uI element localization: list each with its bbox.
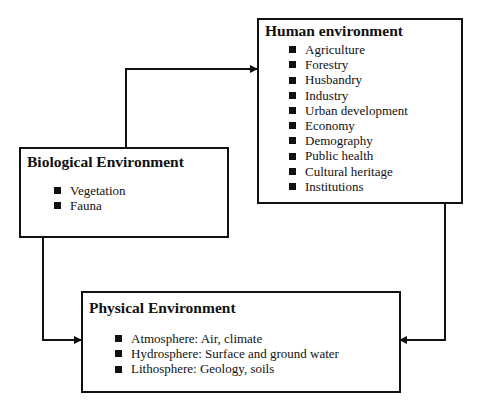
square-bullet-icon xyxy=(115,335,122,342)
list-item: Public health xyxy=(289,148,408,163)
square-bullet-icon xyxy=(289,183,296,190)
biological-environment-list: Vegetation Fauna xyxy=(54,183,126,213)
square-bullet-icon xyxy=(289,122,296,129)
square-bullet-icon xyxy=(289,137,296,144)
human-environment-box: Human environment Agriculture Forestry H… xyxy=(257,18,463,204)
list-item: Vegetation xyxy=(54,183,126,198)
square-bullet-icon xyxy=(54,187,61,194)
list-item: Forestry xyxy=(289,57,408,72)
physical-environment-title: Physical Environment xyxy=(89,299,236,317)
list-item: Cultural heritage xyxy=(289,164,408,179)
list-item: Atmosphere: Air, climate xyxy=(115,331,339,346)
human-environment-list: Agriculture Forestry Husbandry Industry … xyxy=(289,42,408,194)
square-bullet-icon xyxy=(115,350,122,357)
biological-environment-title: Biological Environment xyxy=(27,153,184,171)
list-item: Lithosphere: Geology, soils xyxy=(115,361,339,376)
square-bullet-icon xyxy=(289,61,296,68)
list-item: Fauna xyxy=(54,198,126,213)
square-bullet-icon xyxy=(289,92,296,99)
biological-environment-box: Biological Environment Vegetation Fauna xyxy=(19,147,229,238)
square-bullet-icon xyxy=(289,168,296,175)
list-item: Industry xyxy=(289,88,408,103)
square-bullet-icon xyxy=(289,153,296,160)
physical-environment-box: Physical Environment Atmosphere: Air, cl… xyxy=(81,291,401,393)
list-item: Economy xyxy=(289,118,408,133)
list-item: Husbandry xyxy=(289,72,408,87)
square-bullet-icon xyxy=(289,107,296,114)
square-bullet-icon xyxy=(289,46,296,53)
list-item: Institutions xyxy=(289,179,408,194)
square-bullet-icon xyxy=(54,202,61,209)
list-item: Hydrosphere: Surface and ground water xyxy=(115,346,339,361)
list-item: Agriculture xyxy=(289,42,408,57)
arrow-bio-human xyxy=(126,69,257,147)
physical-environment-list: Atmosphere: Air, climate Hydrosphere: Su… xyxy=(115,331,339,377)
arrow-bio-physical xyxy=(43,238,81,340)
square-bullet-icon xyxy=(115,366,122,373)
list-item: Urban development xyxy=(289,103,408,118)
arrow-human-physical xyxy=(400,203,445,340)
human-environment-title: Human environment xyxy=(265,22,403,40)
list-item: Demography xyxy=(289,133,408,148)
square-bullet-icon xyxy=(289,77,296,84)
